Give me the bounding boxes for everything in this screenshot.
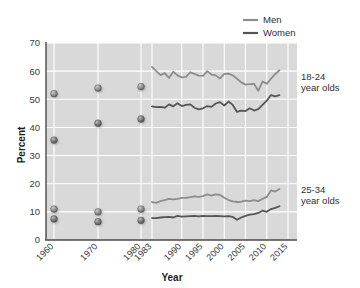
scatter-point-25-34-men <box>95 208 102 215</box>
legend-label-women: Women <box>263 27 296 38</box>
scatter-point-25-34-men <box>138 206 145 213</box>
annotation-group-label: 25-34 <box>301 184 325 195</box>
annotation-group-sublabel: year olds <box>301 82 340 93</box>
y-tick-label: 0 <box>35 234 40 245</box>
scatter-point-18-24-men <box>138 83 145 90</box>
y-tick-label: 20 <box>29 178 40 189</box>
plot-area-background <box>46 43 297 240</box>
scatter-point-18-24-men <box>51 90 58 97</box>
y-tick-label: 70 <box>29 37 40 48</box>
legend-label-men: Men <box>263 14 281 25</box>
scatter-point-18-24-women <box>95 120 102 127</box>
annotation-group-sublabel: year olds <box>301 195 340 206</box>
y-tick-label: 30 <box>29 150 40 161</box>
y-axis-title: Percent <box>16 126 27 163</box>
scatter-point-25-34-women <box>95 218 102 225</box>
scatter-point-25-34-women <box>51 215 58 222</box>
annotation-group-label: 18-24 <box>301 71 325 82</box>
scatter-point-18-24-women <box>138 116 145 123</box>
chart-container: 010203040506070 196019701980198319901995… <box>0 0 360 288</box>
scatter-point-18-24-women <box>51 137 58 144</box>
scatter-point-18-24-men <box>95 85 102 92</box>
x-axis-title: Year <box>161 272 182 283</box>
y-tick-label: 50 <box>29 94 40 105</box>
plot-background <box>46 43 297 240</box>
y-tick-label: 60 <box>29 66 40 77</box>
scatter-point-25-34-men <box>51 206 58 213</box>
scatter-point-25-34-women <box>138 217 145 224</box>
y-tick-label: 40 <box>29 122 40 133</box>
chart-svg: 010203040506070 196019701980198319901995… <box>0 0 360 288</box>
y-tick-label: 10 <box>29 206 40 217</box>
